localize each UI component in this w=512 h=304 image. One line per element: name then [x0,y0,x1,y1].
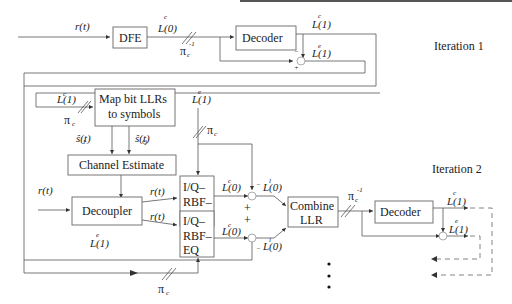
decoupler-label: Decoupler [82,204,132,218]
svg-text:c: c [355,196,359,204]
interleaver-bottom: π [158,282,164,296]
svg-text:c: c [164,13,168,21]
svg-text:e: e [318,42,321,50]
feedback-llr-label: L(1) [56,93,76,106]
svg-text:e: e [198,88,201,96]
continuation-dot [327,274,330,277]
summer-iter2 [439,232,447,240]
continuation-dot [327,285,330,288]
svg-text:-1: -1 [357,186,363,194]
summer-top [248,192,256,200]
svg-text:−: − [256,245,261,253]
eq-bottom-line2: RBF– [183,229,213,243]
minus-top-label: L(0) [262,181,282,194]
svg-text:−: − [256,181,261,189]
svg-text:−: − [294,48,299,56]
iteration-2: L(1) c π c Map bit LLRs to symbols ŝ(t) … [24,86,492,297]
svg-text:l: l [269,177,271,185]
extrinsic-top-label: L(1) [191,93,211,106]
turbo-equalizer-diagram: r(t) DFE L(0) c π -1 c Decoder L(1) c − … [0,0,512,304]
ri-label: r(t) [150,185,165,198]
dfe-output-label: L(0) [157,22,177,35]
svg-text:-1: -1 [189,40,195,48]
svg-text:l: l [269,236,271,244]
eq-bottom-line3: EQ [183,243,199,257]
svg-text:c: c [214,130,218,138]
svg-text:c: c [187,51,191,59]
decoder-1-output-e: L(1) [311,47,331,60]
decoder-2-label: Decoder [380,205,421,219]
eq-top-line2: RBF– [183,195,213,209]
map-block-line2: to symbols [108,107,161,121]
eq-bottom-line1: I/Q– [183,214,206,228]
decoder-1-label: Decoder [242,31,283,45]
deinterleaver-2: π [348,189,354,203]
iter2-input-label: r(t) [38,184,53,197]
rq-label: r(t) [150,210,165,223]
svg-text:e: e [96,231,99,239]
svg-text:e: e [455,217,458,225]
combine-line2: LLR [300,213,323,227]
plus-sign-2: + [244,213,251,227]
dashed-feedback-c [433,208,492,275]
deinterleaver-1: π [180,44,186,58]
minus-bottom-label: L(0) [262,240,282,253]
channel-estimate-label: Channel Estimate [79,158,164,172]
eq-bottom-out-label: L(0) [221,225,241,238]
svg-text:+: + [294,64,299,72]
svg-text:c: c [166,289,170,297]
interleaver-top: π [207,123,213,137]
interleaver-left: π [64,113,70,127]
combine-line1: Combine [290,199,334,213]
decoder-2-output-e: L(1) [448,223,468,236]
iteration-1-label: Iteration 1 [434,39,484,53]
decoder-1-output-c: L(1) [311,18,331,31]
decoupler-extrinsic-label: L(1) [89,237,109,250]
dfe-label: DFE [119,31,142,45]
iteration-1: r(t) DFE L(0) c π -1 c Decoder L(1) c − … [18,12,484,86]
eq-top-line1: I/Q– [183,180,206,194]
svg-text:Q: Q [142,138,147,146]
iter1-input-label: r(t) [75,20,90,33]
summer-bottom [248,234,256,242]
iteration-2-label: Iteration 2 [432,162,482,176]
decoder-2-output-c: L(1) [446,195,466,208]
dashed-feedback-e [433,236,480,259]
map-block-line1: Map bit LLRs [99,92,167,106]
svg-text:c: c [72,120,76,128]
eq-top-out-label: L(0) [221,181,241,194]
continuation-dot [327,262,330,265]
